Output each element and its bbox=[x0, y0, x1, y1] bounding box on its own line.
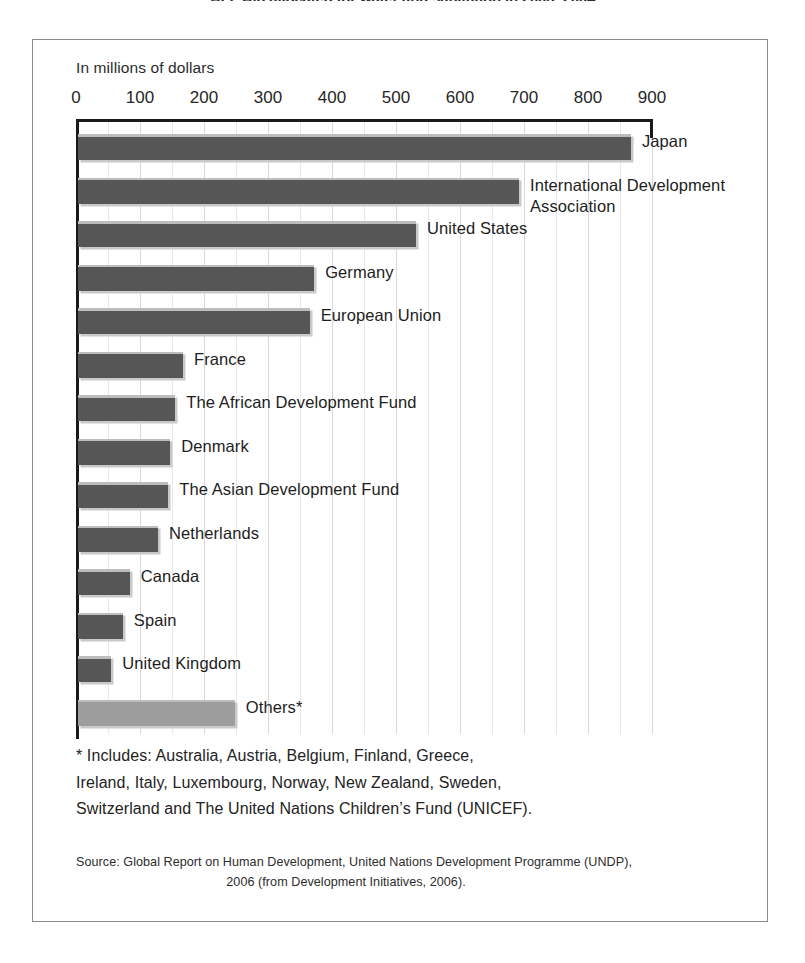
bar bbox=[78, 178, 519, 204]
x-tick-label: 400 bbox=[318, 88, 346, 108]
bar-series: JapanInternational Development Associati… bbox=[33, 122, 769, 731]
x-tick-label: 200 bbox=[190, 88, 218, 108]
bar-label: Canada bbox=[141, 566, 199, 587]
bar-label: Germany bbox=[325, 262, 394, 283]
x-axis-tick-labels: 0100200300400500600700800900 bbox=[33, 88, 769, 110]
bar-row: The African Development Fund bbox=[33, 383, 769, 427]
bar-label: Others* bbox=[246, 697, 303, 718]
bar-row: Spain bbox=[33, 601, 769, 645]
bar-row: Canada bbox=[33, 557, 769, 601]
footnote: * Includes: Australia, Austria, Belgium,… bbox=[76, 743, 716, 823]
source-line-2: 2006 (from Development Initiatives, 2006… bbox=[76, 872, 726, 892]
x-tick-label: 500 bbox=[382, 88, 410, 108]
bar bbox=[78, 308, 310, 334]
footnote-line-2: Ireland, Italy, Luxembourg, Norway, New … bbox=[76, 770, 716, 797]
bar bbox=[78, 352, 183, 378]
bar-row: Others* bbox=[33, 688, 769, 732]
bar-label: The African Development Fund bbox=[186, 392, 416, 413]
bar-label: The Asian Development Fund bbox=[179, 479, 399, 500]
bar-label: Netherlands bbox=[169, 523, 259, 544]
bar-label: Japan bbox=[642, 131, 687, 152]
bar bbox=[78, 569, 130, 595]
bar bbox=[78, 439, 170, 465]
bar-row: Netherlands bbox=[33, 514, 769, 558]
footnote-line-3: Switzerland and The United Nations Child… bbox=[76, 796, 716, 823]
source-note: Source: Global Report on Human Developme… bbox=[76, 852, 726, 892]
bar-label: Denmark bbox=[181, 436, 249, 457]
bar bbox=[78, 482, 168, 508]
bar-row: Japan bbox=[33, 122, 769, 166]
footnote-line-1: * Includes: Australia, Austria, Belgium,… bbox=[76, 743, 716, 770]
bar-row: Denmark bbox=[33, 427, 769, 471]
bar bbox=[78, 134, 631, 160]
figure-title: AFF Aid allocated for water and sanitati… bbox=[0, 0, 805, 1]
x-tick-label: 300 bbox=[254, 88, 282, 108]
bar-label: United Kingdom bbox=[122, 653, 241, 674]
x-tick-label: 900 bbox=[638, 88, 666, 108]
x-tick-label: 0 bbox=[71, 88, 80, 108]
bar-label: Spain bbox=[134, 610, 177, 631]
bar bbox=[78, 700, 235, 726]
bar bbox=[78, 613, 123, 639]
bar-row: France bbox=[33, 340, 769, 384]
bar bbox=[78, 221, 416, 247]
x-tick-label: 700 bbox=[510, 88, 538, 108]
chart-frame: In millions of dollars 01002003004005006… bbox=[32, 39, 768, 922]
bar bbox=[78, 395, 175, 421]
bar bbox=[78, 265, 314, 291]
source-line-1: Source: Global Report on Human Developme… bbox=[76, 852, 726, 872]
bar-row: European Union bbox=[33, 296, 769, 340]
bar-row: Germany bbox=[33, 253, 769, 297]
x-tick-label: 100 bbox=[126, 88, 154, 108]
bar bbox=[78, 656, 111, 682]
bar-label: United States bbox=[427, 218, 527, 239]
bar bbox=[78, 526, 158, 552]
bar-row: United States bbox=[33, 209, 769, 253]
bar-row: The Asian Development Fund bbox=[33, 470, 769, 514]
bar-label: European Union bbox=[321, 305, 442, 326]
x-tick-label: 600 bbox=[446, 88, 474, 108]
x-tick-label: 800 bbox=[574, 88, 602, 108]
bar-row: International Development Association bbox=[33, 166, 769, 210]
bar-row: United Kingdom bbox=[33, 644, 769, 688]
bar-label: France bbox=[194, 349, 246, 370]
